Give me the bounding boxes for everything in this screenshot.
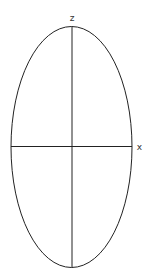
x-axis-label: x [137, 142, 143, 152]
ellipse-diagram: z x [0, 0, 149, 280]
z-axis-label: z [70, 13, 75, 23]
